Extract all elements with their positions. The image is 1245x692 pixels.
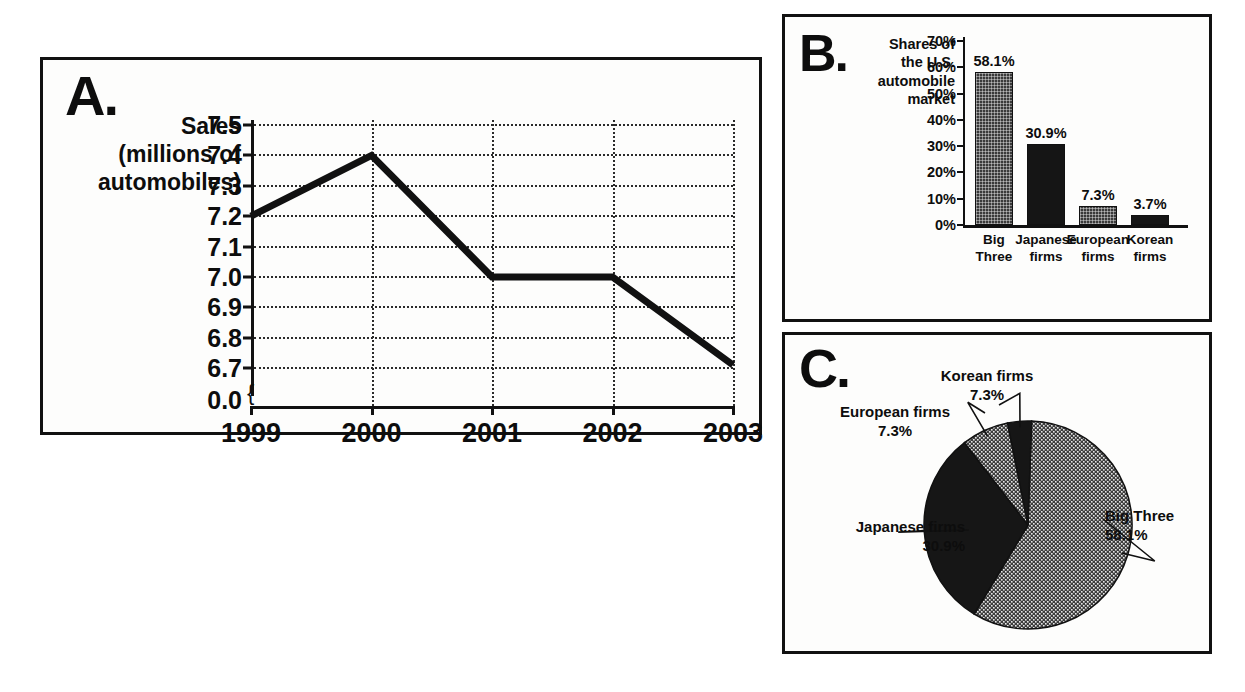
panel-c-slice-value: 30.9%	[813, 537, 965, 556]
panel-b-category-label-line: firms	[1067, 248, 1129, 265]
panel-c-slice-name: Korean firms	[941, 367, 1034, 384]
panel-c-pie-chart: C. Big Three58.1%Japanese firms30.9%Euro…	[782, 332, 1212, 654]
panel-b-y-tick-label: 40%	[927, 113, 956, 128]
panel-b-category-label-line: Korean	[1127, 231, 1174, 248]
panel-c-slice-label: Japanese firms30.9%	[813, 518, 965, 556]
panel-a-axis-break-label: 0.0	[207, 388, 242, 413]
panel-a-x-tick-label: 2001	[462, 418, 522, 449]
panel-b-bar-value-label: 58.1%	[973, 53, 1014, 69]
panel-c-slice-name: Japanese firms	[856, 518, 965, 535]
panel-a-y-tick-label: 7.2	[207, 204, 242, 229]
panel-a-y-tick-label: 6.7	[207, 356, 242, 381]
panel-a-y-tick-label: 7.1	[207, 234, 242, 259]
panel-c-slice-label: Big Three58.1%	[1105, 507, 1174, 545]
panel-c-slice-value: 7.3%	[809, 422, 981, 441]
panel-b-y-tick-mark	[957, 119, 964, 121]
panel-b-x-axis-line	[963, 225, 1188, 228]
panel-a-x-tick-label: 2003	[703, 418, 763, 449]
panel-b-y-tick-label: 20%	[927, 165, 956, 180]
panel-b-plot-area: 70%60%50%40%30%20%10%0% 58.1%BigThree30.…	[963, 37, 1188, 257]
panel-b-y-tick-mark	[957, 66, 964, 68]
panel-b-category-label-line: European	[1067, 231, 1129, 248]
panel-b-bar-value-label: 30.9%	[1025, 125, 1066, 141]
panel-b-y-tick-label: 60%	[927, 60, 956, 75]
panel-b-y-tick-mark	[957, 198, 964, 200]
panel-a-y-tick-label: 6.8	[207, 325, 242, 350]
panel-b-category-label-line: firms	[1127, 248, 1174, 265]
panel-c-slice-value: 7.3%	[903, 386, 1071, 405]
panel-b-category-label-line: Three	[976, 248, 1013, 265]
panel-b-y-tick-mark	[957, 93, 964, 95]
panel-b-category-label: Europeanfirms	[1067, 231, 1129, 266]
panel-b-y-tick-label: 30%	[927, 139, 956, 154]
panel-a-y-tick-label: 6.9	[207, 295, 242, 320]
panel-b-bar-value-label: 7.3%	[1081, 187, 1114, 203]
panel-b-category-label: Koreanfirms	[1127, 231, 1174, 266]
panel-b-bar	[1027, 144, 1065, 225]
panel-c-slice-value: 58.1%	[1105, 526, 1174, 545]
panel-a-y-tick-label: 7.4	[207, 143, 242, 168]
panel-c-slice-name: European firms	[840, 403, 950, 420]
panel-a-line-chart: A. Sales (millions of automobiles) 7.57.…	[40, 57, 762, 435]
panel-b-y-tick-mark	[957, 224, 964, 226]
panel-a-y-tick-label: 7.3	[207, 173, 242, 198]
panel-a-x-tick-label: 2002	[582, 418, 642, 449]
panel-b-category-label: BigThree	[976, 231, 1013, 266]
panel-c-slice-label: European firms7.3%	[809, 403, 981, 441]
panel-b-y-tick-mark	[957, 171, 964, 173]
panel-b-y-tick-label: 70%	[927, 34, 956, 49]
panel-b-bar	[975, 72, 1013, 225]
panel-a-data-line	[251, 120, 733, 409]
panel-a-plot-area: 7.57.47.37.27.17.06.96.86.70.0 199920002…	[251, 120, 733, 408]
panel-a-y-tick-label: 7.5	[207, 113, 242, 138]
panel-b-bar	[1079, 206, 1117, 225]
panel-b-category-label-line: Big	[976, 231, 1013, 248]
panel-b-y-tick-label: 0%	[935, 218, 956, 233]
panel-c-slice-label: Korean firms7.3%	[903, 367, 1071, 405]
panel-b-y-tick-label: 10%	[927, 191, 956, 206]
panel-b-bar-value-label: 3.7%	[1133, 196, 1166, 212]
panel-b-y-tick-mark	[957, 40, 964, 42]
panel-b-bar	[1131, 215, 1169, 225]
panel-a-x-tick-label: 1999	[221, 418, 281, 449]
panel-c-slice-name: Big Three	[1105, 507, 1174, 524]
panel-b-y-tick-label: 50%	[927, 86, 956, 101]
panel-a-x-tick-label: 2000	[341, 418, 401, 449]
panel-a-y-tick-label: 7.0	[207, 264, 242, 289]
panel-b-y-tick-mark	[957, 145, 964, 147]
panel-b-bar-chart: B. Shares of the U.S. automobile market …	[782, 14, 1212, 322]
